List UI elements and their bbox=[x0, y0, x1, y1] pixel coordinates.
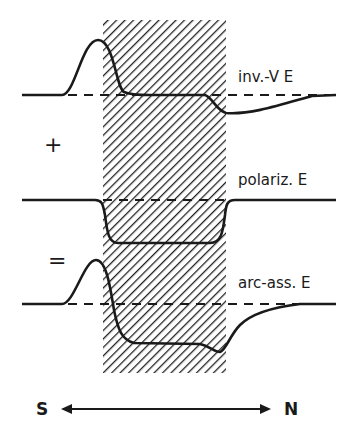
hatched-region bbox=[103, 20, 226, 373]
arrow-right-icon bbox=[260, 404, 271, 414]
plus-operator: + bbox=[44, 132, 62, 157]
label-arc-ass-e: arc-ass. E bbox=[238, 274, 311, 292]
label-polariz-e: polariz. E bbox=[238, 171, 307, 189]
label-south: S bbox=[36, 399, 48, 419]
equals-operator: = bbox=[48, 248, 66, 273]
s-n-axis bbox=[61, 404, 271, 414]
diagram-canvas: inv.-V E + polariz. E = arc-ass. E S N bbox=[0, 0, 353, 439]
label-north: N bbox=[284, 399, 298, 419]
label-inv-v-e: inv.-V E bbox=[238, 68, 293, 86]
arrow-left-icon bbox=[61, 404, 72, 414]
